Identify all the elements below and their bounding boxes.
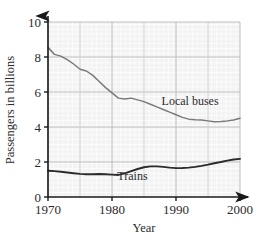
x-tick-label: 1970: [35, 202, 61, 217]
x-tick-label: 1980: [99, 202, 125, 217]
x-axis-ticks: 1970198019902000: [35, 197, 253, 217]
y-tick-label: 8: [35, 50, 42, 65]
y-tick-label: 2: [35, 155, 42, 170]
y-tick-label: 10: [28, 15, 41, 30]
line-chart: 0246810 1970198019902000 Local busesTrai…: [0, 0, 267, 240]
series-label-trains: Trains: [117, 169, 148, 183]
series-label-local-buses: Local buses: [162, 94, 219, 108]
y-axis-ticks: 0246810: [28, 15, 48, 205]
y-tick-label: 4: [35, 120, 42, 135]
y-tick-label: 6: [35, 85, 42, 100]
y-axis-title: Passengers in billions: [3, 56, 17, 164]
chart-container: 0246810 1970198019902000 Local busesTrai…: [0, 0, 267, 240]
x-tick-label: 2000: [227, 202, 253, 217]
x-tick-label: 1990: [163, 202, 189, 217]
x-axis-title: Year: [132, 221, 156, 235]
